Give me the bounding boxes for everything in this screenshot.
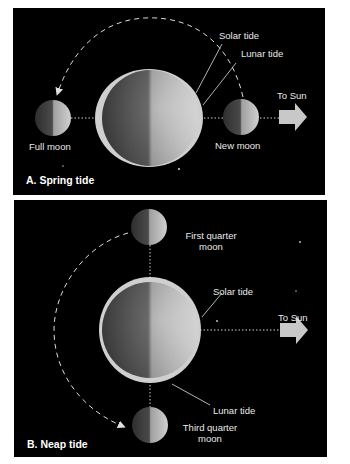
spring-tide-panel: Solar tide Lunar tide To Sun Full moon N… — [13, 8, 325, 195]
full-moon — [35, 100, 71, 136]
solar-tide-label: Solar tide — [213, 286, 253, 297]
full-moon-label: Full moon — [29, 141, 71, 152]
panel-title: A. Spring tide — [26, 174, 94, 186]
star — [178, 168, 180, 170]
to-sun-label: To Sun — [277, 90, 307, 101]
lunar-tide-label: Lunar tide — [241, 48, 283, 59]
lunar-tide-leader — [203, 63, 236, 105]
new-moon-label: New moon — [215, 140, 260, 151]
star — [62, 165, 64, 167]
third-quarter-line2: moon — [170, 433, 250, 444]
star — [295, 290, 297, 292]
lunar-tide-label: Lunar tide — [213, 405, 255, 416]
third-quarter-line1: Third quarter — [170, 422, 250, 433]
third-quarter-moon-label: Third quarter moon — [170, 422, 250, 444]
first-quarter-line1: First quarter — [172, 230, 250, 241]
star — [299, 241, 301, 243]
to-sun-arrow-icon — [279, 103, 307, 131]
lunar-tide-leader — [172, 384, 210, 405]
first-quarter-moon — [131, 209, 167, 245]
third-quarter-moon — [132, 407, 168, 443]
neap-tide-diagram — [14, 200, 327, 457]
to-sun-label: To Sun — [278, 312, 308, 323]
new-moon — [223, 99, 259, 135]
spring-tide-diagram — [13, 8, 325, 195]
neap-tide-panel: First quarter moon Solar tide To Sun Lun… — [14, 200, 327, 457]
solar-tide-label: Solar tide — [219, 30, 259, 41]
first-quarter-moon-label: First quarter moon — [172, 230, 250, 252]
first-quarter-line2: moon — [172, 241, 250, 252]
star — [216, 320, 218, 322]
panel-title: B. Neap tide — [27, 438, 88, 450]
